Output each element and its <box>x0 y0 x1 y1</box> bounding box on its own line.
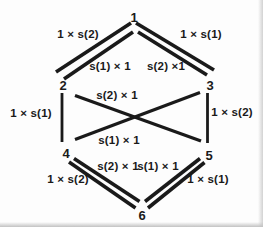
node-3-label: 3 <box>206 78 213 93</box>
edge-5-6-label-0: 1 × s(1) <box>187 173 229 185</box>
edge-4-3-label-0: s(1) × 1 <box>98 134 140 146</box>
node-5-label: 5 <box>205 148 212 163</box>
node-2-label: 2 <box>59 78 66 93</box>
edge-2-4-label-0: 1 × s(1) <box>10 107 52 119</box>
edge-1-2-label-1: s(1) × 1 <box>89 60 131 72</box>
node-1-label: 1 <box>130 10 137 25</box>
edge-3-5-label-0: 1 × s(2) <box>211 106 253 118</box>
hasse-diagram-svg: 1 × s(2)s(1) × 11 × s(1)s(2) ×11 × s(1)1… <box>0 0 263 227</box>
diagram-stage: 1 × s(2)s(1) × 11 × s(1)s(2) ×11 × s(1)1… <box>0 0 263 227</box>
edge-4-6-label-0: 1 × s(2) <box>47 173 89 185</box>
scan-edge-bottom <box>0 222 263 227</box>
node-4-label: 4 <box>62 146 70 161</box>
edge-2-5-label-0: s(2) × 1 <box>96 89 138 101</box>
edge-4-6-label-1: s(2) × 1 <box>97 160 139 172</box>
edge-1-3-label-1: s(2) ×1 <box>147 60 186 72</box>
edge-1-2-label-0: 1 × s(2) <box>57 28 99 40</box>
node-6-label: 6 <box>138 208 145 223</box>
edge-1-3-label-0: 1 × s(1) <box>180 28 222 40</box>
scan-edge-right <box>258 0 263 227</box>
edge-5-6-label-1: s(1) × 1 <box>137 160 179 172</box>
